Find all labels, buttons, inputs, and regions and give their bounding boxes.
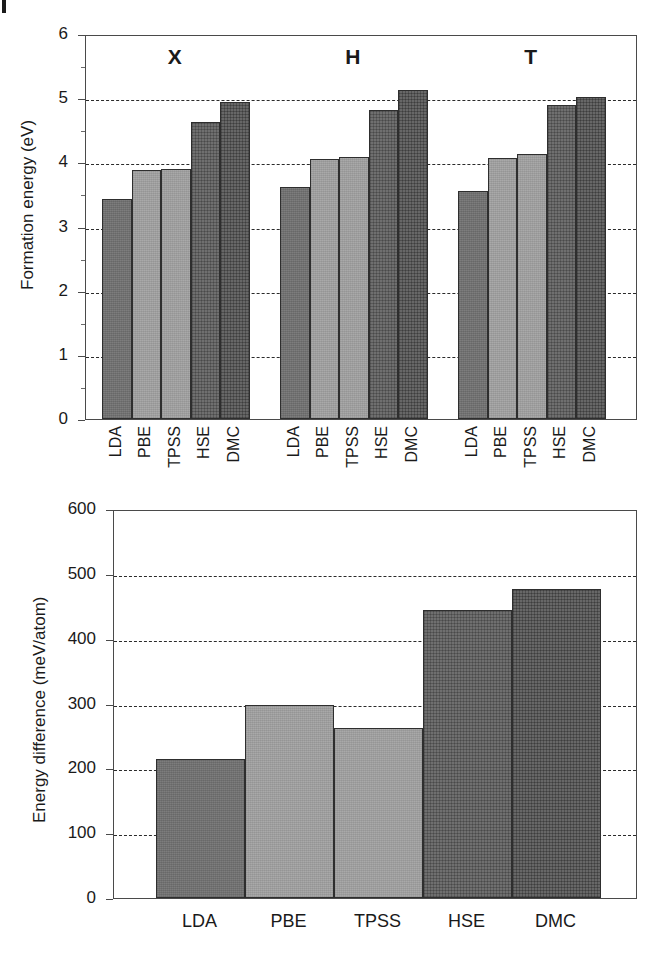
- bottom-chart-y-tick-mark: [106, 575, 113, 576]
- top-chart-y-tick-label: 1: [0, 345, 68, 365]
- bottom-chart-y-tick-mark: [106, 510, 113, 511]
- bar-dmc: [512, 589, 601, 898]
- top-chart-x-tick-label: DMC: [403, 426, 421, 462]
- bar-x-hse: [191, 122, 221, 419]
- top-chart-x-tick-label: DMC: [225, 426, 243, 462]
- top-chart-x-tick-label: LDA: [463, 426, 481, 457]
- group-label-x: X: [101, 45, 249, 69]
- top-chart-y-tick-mark: [78, 163, 85, 164]
- bar-h-dmc: [398, 90, 428, 419]
- top-chart-y-tick-label: 5: [0, 88, 68, 108]
- bottom-chart-x-tick-label: TPSS: [333, 911, 422, 932]
- bar-x-dmc: [220, 102, 250, 419]
- bar-h-lda: [280, 187, 310, 419]
- top-chart-y-tick-mark: [78, 228, 85, 229]
- bar-x-lda: [102, 199, 132, 419]
- top-chart-y-tick-mark: [78, 292, 85, 293]
- bar-h-hse: [369, 110, 399, 419]
- bar-hse: [423, 610, 512, 899]
- top-chart-x-tick-label: TPSS: [344, 426, 362, 468]
- top-chart-x-tick-label: TPSS: [522, 426, 540, 468]
- top-chart-y-tick-mark: [78, 356, 85, 357]
- bottom-chart-x-tick-label: LDA: [155, 911, 244, 932]
- top-chart-x-tick-label: PBE: [136, 426, 154, 458]
- top-chart-x-tick-label: DMC: [581, 426, 599, 462]
- bottom-chart-y-tick-label: 200: [0, 758, 96, 778]
- bottom-chart-y-tick-label: 500: [0, 564, 96, 584]
- top-chart-plot-area: [85, 35, 637, 420]
- bar-lda: [156, 759, 245, 898]
- energy-difference-chart: Energy difference (meV/atom) 01002003004…: [0, 490, 671, 972]
- bottom-chart-bars: [114, 511, 636, 898]
- bar-h-tpss: [339, 157, 369, 419]
- top-chart-y-tick-mark: [78, 420, 85, 421]
- formation-energy-chart: Formation energy (eV) 0123456 XHT LDAPBE…: [0, 0, 671, 490]
- bottom-chart-y-tick-mark: [106, 705, 113, 706]
- top-chart-y-tick-label: 2: [0, 281, 68, 301]
- top-chart-x-tick-label: HSE: [373, 426, 391, 459]
- bottom-chart-x-tick-label: DMC: [511, 911, 600, 932]
- top-chart-y-tick-label: 6: [0, 24, 68, 44]
- bar-t-pbe: [488, 158, 518, 419]
- bar-tpss: [334, 728, 423, 899]
- top-chart-y-tick-label: 0: [0, 409, 68, 429]
- group-label-t: T: [457, 45, 605, 69]
- bar-pbe: [245, 705, 334, 898]
- top-chart-x-tick-label: HSE: [195, 426, 213, 459]
- bar-t-dmc: [576, 97, 606, 419]
- bottom-chart-x-tick-label: HSE: [422, 911, 511, 932]
- top-chart-x-tick-label: LDA: [285, 426, 303, 457]
- bar-x-pbe: [132, 170, 162, 419]
- bar-t-hse: [547, 105, 577, 419]
- top-chart-y-tick-label: 3: [0, 217, 68, 237]
- top-chart-x-tick-label: TPSS: [166, 426, 184, 468]
- bottom-chart-y-tick-label: 600: [0, 499, 96, 519]
- top-chart-x-tick-label: PBE: [314, 426, 332, 458]
- bar-t-tpss: [517, 154, 547, 419]
- group-label-h: H: [279, 45, 427, 69]
- bottom-chart-y-tick-label: 0: [0, 888, 96, 908]
- bottom-chart-y-tick-mark: [106, 640, 113, 641]
- bottom-chart-plot-area: [113, 510, 637, 899]
- bottom-chart-y-tick-label: 100: [0, 823, 96, 843]
- top-chart-bars: [86, 36, 636, 419]
- top-chart-y-tick-mark: [78, 35, 85, 36]
- bottom-chart-y-tick-label: 400: [0, 629, 96, 649]
- bottom-chart-y-tick-mark: [106, 769, 113, 770]
- bar-t-lda: [458, 191, 488, 419]
- bottom-chart-y-tick-mark: [106, 899, 113, 900]
- top-chart-y-tick-label: 4: [0, 152, 68, 172]
- bottom-chart-y-tick-label: 300: [0, 694, 96, 714]
- bottom-chart-y-tick-mark: [106, 834, 113, 835]
- top-chart-x-tick-label: PBE: [492, 426, 510, 458]
- top-chart-y-tick-mark: [78, 99, 85, 100]
- bottom-chart-x-tick-label: PBE: [244, 911, 333, 932]
- bar-h-pbe: [310, 159, 340, 419]
- top-chart-x-tick-label: HSE: [551, 426, 569, 459]
- bar-x-tpss: [161, 169, 191, 419]
- top-chart-x-tick-label: LDA: [107, 426, 125, 457]
